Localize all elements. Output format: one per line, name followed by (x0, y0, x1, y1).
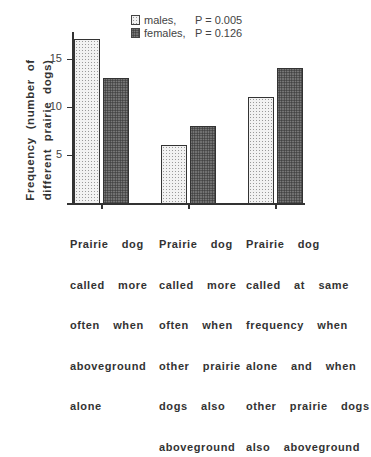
category-1-line-3: often when (70, 319, 147, 333)
bar-males-group-1 (74, 39, 100, 204)
y-tick-label-10: 10 (42, 100, 62, 112)
category-label-3: Prairie dog called at same frequency whe… (246, 211, 370, 457)
category-2-line-6: aboveground (159, 441, 241, 455)
y-tick-15 (67, 59, 72, 60)
y-axis-label-line-1: Frequency (number of (22, 30, 39, 230)
legend-swatch-females (131, 28, 140, 38)
category-2-line-1: Prairie dog (159, 238, 241, 252)
legend-pvalue-females: P = 0.126 (195, 27, 242, 39)
category-2-line-3: often when (159, 319, 241, 333)
bar-females-group-1 (103, 78, 129, 204)
category-1-line-5: alone (70, 400, 147, 414)
legend-label-females: females, (144, 27, 186, 39)
y-tick-label-5: 5 (42, 148, 62, 160)
category-2-line-2: called more (159, 279, 241, 293)
y-tick-label-15: 15 (42, 52, 62, 64)
category-label-2: Prairie dog called more often when other… (159, 211, 241, 457)
category-3-line-5: other prairie dogs (246, 400, 370, 414)
bar-females-group-3 (277, 68, 303, 204)
legend-swatch-males (131, 15, 140, 25)
bar-females-group-2 (190, 126, 216, 204)
category-1-line-2: called more (70, 279, 147, 293)
category-2-line-4: other prairie (159, 360, 241, 374)
y-tick-10 (67, 107, 72, 108)
category-1-line-4: aboveground (70, 360, 147, 374)
category-3-line-1: Prairie dog (246, 238, 370, 252)
category-3-line-3: frequency when (246, 319, 370, 333)
legend-pvalue-males: P = 0.005 (195, 14, 242, 26)
category-2-line-5: dogs also (159, 400, 241, 414)
bar-males-group-2 (161, 145, 187, 204)
category-3-line-2: called at same (246, 279, 370, 293)
category-label-1: Prairie dog called more often when above… (70, 211, 147, 441)
bar-males-group-3 (248, 97, 274, 204)
category-3-line-4: alone and when (246, 360, 370, 374)
category-1-line-1: Prairie dog (70, 238, 147, 252)
category-3-line-6: also aboveground (246, 441, 370, 455)
legend-label-males: males, (144, 14, 176, 26)
y-tick-5 (67, 155, 72, 156)
